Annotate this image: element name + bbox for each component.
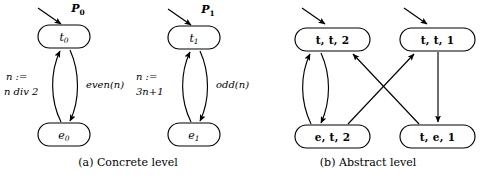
machine-0-group: P0 t0 e0 n := n div 2 even(n) — [4, 2, 124, 146]
caption-abstract-level: (b) Abstract level — [320, 156, 417, 169]
edge-e1-to-t1 — [183, 52, 191, 122]
init-arrow-p1 — [168, 9, 191, 25]
init-arrow-p0 — [38, 8, 61, 24]
node-tt1-label: t, t, 1 — [421, 34, 455, 46]
figure-canvas: P0 t0 e0 n := n div 2 even(n) P1 t1 — [0, 0, 480, 181]
edge-t0-to-e0 — [70, 50, 78, 121]
edge-label-guard-1: odd(n) — [216, 79, 249, 90]
edge-label-assign-1-line2: 3n+1 — [136, 86, 164, 97]
edge-tt2-to-et2 — [321, 53, 329, 123]
init-arrow-tt1 — [404, 8, 427, 24]
edge-label-guard-0: even(n) — [86, 79, 124, 90]
state-machine-figure: P0 t0 e0 n := n div 2 even(n) P1 t1 — [0, 0, 480, 181]
caption-concrete-level: (a) Concrete level — [78, 156, 178, 169]
edge-label-assign-0-line1: n := — [6, 71, 27, 82]
node-tt2-label: t, t, 2 — [316, 34, 350, 46]
machine-1-group: P1 t1 e1 n := 3n+1 odd(n) — [136, 3, 249, 146]
init-label-p1: P1 — [200, 3, 215, 18]
edge-label-assign-0-line2: n div 2 — [4, 86, 38, 97]
abstract-level-group: t, t, 2 t, t, 1 e, t, 2 t, e, 1 — [295, 8, 475, 148]
edge-t1-to-e1 — [200, 51, 208, 121]
node-et2-label: e, t, 2 — [315, 131, 351, 143]
init-label-p0: P0 — [70, 2, 85, 17]
init-arrow-tt2 — [302, 8, 325, 24]
edge-e0-to-t0 — [53, 51, 61, 122]
node-te1-label: t, e, 1 — [420, 131, 456, 143]
edge-label-assign-1-line1: n := — [136, 71, 157, 82]
edge-et2-to-tt2 — [303, 54, 311, 124]
edge-et2-to-tt1 — [348, 54, 414, 124]
edge-te1-to-tt2 — [353, 54, 419, 124]
